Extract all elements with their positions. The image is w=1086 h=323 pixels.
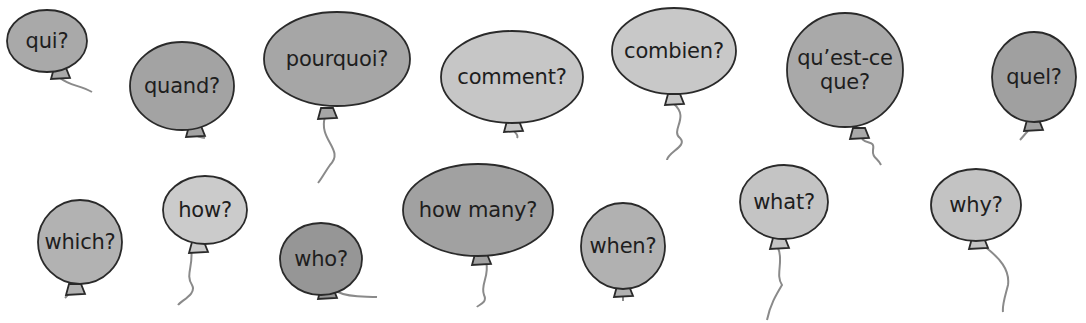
balloon-label: qu’est-ceque? <box>797 46 893 94</box>
balloon-label: why? <box>949 193 1002 217</box>
balloon-scene <box>0 0 1086 323</box>
balloon-string <box>767 248 782 320</box>
balloon-string <box>338 292 377 297</box>
balloon-string <box>318 117 335 183</box>
balloon-knot <box>665 94 684 105</box>
balloon <box>612 8 736 160</box>
balloon-label: which? <box>44 230 115 254</box>
balloon-string <box>477 262 487 307</box>
balloon-label: comment? <box>457 65 566 89</box>
balloon-label: what? <box>753 190 815 214</box>
balloon-string <box>984 246 1008 312</box>
balloon-label: when? <box>590 234 657 258</box>
balloon-string <box>178 248 193 305</box>
balloon <box>403 164 553 307</box>
balloon-string <box>862 139 881 165</box>
balloon <box>931 169 1021 312</box>
balloon-label: qui? <box>26 29 69 53</box>
balloon-label: how? <box>178 198 232 222</box>
balloon-string <box>1020 131 1028 140</box>
balloon <box>264 12 410 183</box>
balloon-knot <box>66 284 85 295</box>
balloon-string <box>667 104 682 160</box>
balloon-label: how many? <box>419 198 537 222</box>
balloon <box>163 176 247 305</box>
balloon-string <box>60 78 92 92</box>
balloon-label: quel? <box>1006 65 1062 89</box>
balloon-knot <box>850 128 869 139</box>
balloon <box>740 165 828 320</box>
balloon-label: who? <box>294 247 348 271</box>
balloon-label: quand? <box>144 74 220 98</box>
balloon-label: pourquoi? <box>286 47 388 71</box>
balloon-label: combien? <box>624 39 724 63</box>
balloon-knot <box>318 108 337 119</box>
